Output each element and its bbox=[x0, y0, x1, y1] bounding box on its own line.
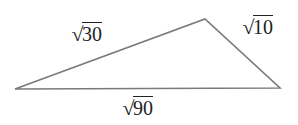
side-label-sqrt90: √90 bbox=[123, 96, 153, 118]
side-value: 30 bbox=[82, 22, 102, 44]
sqrt-symbol-icon: √ bbox=[122, 98, 134, 118]
sqrt-symbol-icon: √ bbox=[242, 17, 254, 37]
side-label-sqrt30: √30 bbox=[72, 22, 102, 44]
side-value: 90 bbox=[133, 96, 153, 118]
triangle-diagram: √30 √10 √90 bbox=[0, 0, 298, 125]
side-value: 10 bbox=[253, 15, 273, 37]
sqrt-symbol-icon: √ bbox=[71, 24, 83, 44]
side-label-sqrt10: √10 bbox=[243, 15, 273, 37]
